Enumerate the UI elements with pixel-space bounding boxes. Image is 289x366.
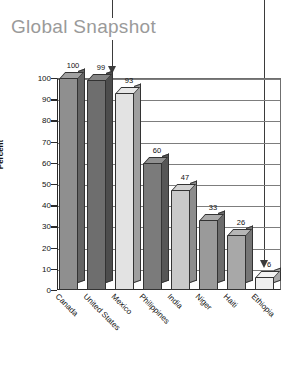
bar-ethiopia: 6 bbox=[255, 277, 274, 290]
bar-side-face bbox=[190, 181, 197, 283]
y-axis-tick-label: 90 bbox=[23, 95, 51, 104]
x-axis-label-niger: Niger bbox=[194, 292, 214, 312]
bar-side-face bbox=[134, 83, 141, 283]
y-axis-tick-label: 80 bbox=[23, 116, 51, 125]
bar-side-face bbox=[78, 68, 85, 283]
bar-front-face bbox=[115, 93, 134, 290]
bar-front-face bbox=[171, 190, 190, 290]
bar-united-states: 99 bbox=[87, 80, 106, 290]
x-axis-label-haiti: Haiti bbox=[222, 292, 240, 310]
x-axis-label-ethiopia: Ethiopia bbox=[250, 292, 277, 319]
y-axis-tick-label: 0 bbox=[23, 286, 51, 295]
bar-mexico: 93 bbox=[115, 93, 134, 290]
bar-value-label: 99 bbox=[81, 63, 121, 72]
bar-value-label: 26 bbox=[221, 218, 261, 227]
arrow-shaft-upper bbox=[112, 0, 113, 18]
bar-value-label: 6 bbox=[249, 260, 289, 269]
bar-front-face bbox=[255, 277, 274, 290]
bar-value-label: 47 bbox=[165, 173, 205, 182]
bar-value-label: 93 bbox=[109, 76, 149, 85]
y-axis-labels: 1009080706050403020100 bbox=[18, 78, 51, 290]
bar-front-face bbox=[59, 78, 78, 290]
bar-side-face bbox=[106, 71, 113, 283]
y-axis-tick-label: 60 bbox=[23, 158, 51, 167]
bar-value-label: 33 bbox=[193, 203, 233, 212]
y-axis-tick-label: 50 bbox=[23, 180, 51, 189]
y-axis-tick-label: 70 bbox=[23, 137, 51, 146]
bar-front-face bbox=[199, 220, 218, 290]
bar-philippines: 60 bbox=[143, 163, 162, 290]
y-axis-tick-label: 100 bbox=[23, 74, 51, 83]
bar-value-label: 60 bbox=[137, 146, 177, 155]
x-axis-labels: CanadaUnited StatesMexicoPhilippinesIndi… bbox=[57, 292, 281, 366]
bar-front-face bbox=[227, 235, 246, 290]
page-title: Global Snapshot bbox=[11, 16, 156, 38]
y-axis-title: Percent bbox=[0, 140, 5, 169]
bar-front-face bbox=[143, 163, 162, 290]
x-axis-label-mexico: Mexico bbox=[110, 292, 134, 316]
bar-haiti: 26 bbox=[227, 235, 246, 290]
y-axis-tick-label: 20 bbox=[23, 243, 51, 252]
bar-india: 47 bbox=[171, 190, 190, 290]
bar-series: 1009993604733266 bbox=[57, 78, 281, 290]
y-axis-tick-label: 30 bbox=[23, 222, 51, 231]
x-axis-label-india: India bbox=[166, 292, 185, 311]
y-axis-tick-label: 40 bbox=[23, 201, 51, 210]
bar-canada: 100 bbox=[59, 78, 78, 290]
chart-figure: Global Snapshot 1009080706050403020100 P… bbox=[0, 0, 289, 366]
y-axis-tick-label: 10 bbox=[23, 264, 51, 273]
bar-front-face bbox=[87, 80, 106, 290]
x-axis-label-canada: Canada bbox=[54, 292, 80, 318]
bar-niger: 33 bbox=[199, 220, 218, 290]
